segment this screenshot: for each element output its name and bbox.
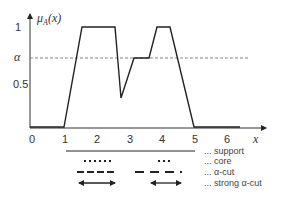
y-tick-0-5: 0.5 xyxy=(13,78,28,90)
x-tick-5: 5 xyxy=(192,133,198,145)
x-tick-1: 1 xyxy=(62,133,68,145)
x-tick-6: 6 xyxy=(224,133,230,145)
x-tick-0: 0 xyxy=(29,133,35,145)
legend-strong-alpha-cut-label: ... strong α-cut xyxy=(204,178,262,188)
y-tick-1: 1 xyxy=(15,21,21,33)
y-tick-alpha: α xyxy=(14,50,21,64)
x-axis-label: x xyxy=(252,132,259,146)
membership-curve xyxy=(30,27,240,127)
legend-support-label: ... support xyxy=(204,146,245,156)
legend-alpha-cut-label: ... α-cut xyxy=(204,167,235,177)
legend-core-label: ... core xyxy=(204,156,232,166)
x-tick-3: 3 xyxy=(127,133,133,145)
x-tick-2: 2 xyxy=(94,133,100,145)
y-axis-label: μA(x) xyxy=(36,11,61,27)
x-tick-4: 4 xyxy=(159,133,165,145)
membership-function-diagram: μA(x) 1 α 0.5 0 1 2 3 4 5 6 x ... suppor… xyxy=(0,0,281,197)
